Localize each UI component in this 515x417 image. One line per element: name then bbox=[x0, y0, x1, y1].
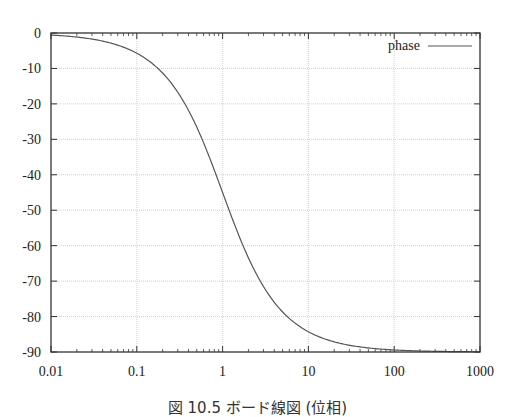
y-tick-label: -60 bbox=[22, 239, 41, 254]
y-tick-label: -90 bbox=[22, 345, 41, 360]
legend: phase bbox=[388, 38, 472, 53]
x-tick-label: 0.01 bbox=[39, 364, 64, 379]
plot-frame bbox=[51, 33, 480, 352]
x-axis-labels: 0.010.11101001000 bbox=[39, 364, 494, 379]
x-tick-label: 1 bbox=[219, 364, 226, 379]
y-tick-label: -20 bbox=[22, 97, 41, 112]
phase-curve bbox=[51, 35, 480, 352]
x-tick-label: 0.1 bbox=[128, 364, 146, 379]
figure-caption: 図 10.5 ボード線図 (位相) bbox=[0, 396, 515, 417]
y-tick-label: -80 bbox=[22, 310, 41, 325]
y-tick-label: -30 bbox=[22, 132, 41, 147]
y-tick-label: -40 bbox=[22, 168, 41, 183]
x-tick-label: 100 bbox=[384, 364, 405, 379]
grid-lines bbox=[51, 33, 480, 352]
x-tick-label: 1000 bbox=[466, 364, 494, 379]
y-tick-label: 0 bbox=[34, 26, 41, 41]
y-tick-label: -70 bbox=[22, 274, 41, 289]
legend-label: phase bbox=[388, 38, 420, 53]
y-tick-label: -10 bbox=[22, 61, 41, 76]
x-tick-label: 10 bbox=[301, 364, 315, 379]
y-tick-label: -50 bbox=[22, 203, 41, 218]
axis-ticks bbox=[51, 33, 480, 352]
y-axis-labels: 0-10-20-30-40-50-60-70-80-90 bbox=[22, 26, 41, 360]
